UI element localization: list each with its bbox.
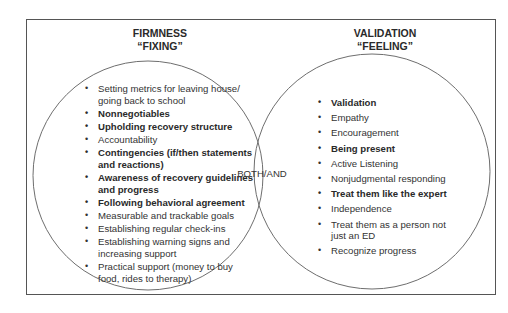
left-set-heading: FIRMNESS “FIXING” [100, 27, 220, 53]
list-item: Establishing warning signs and increasin… [85, 236, 255, 259]
list-item: Being present [318, 143, 458, 155]
validation-item-list: ValidationEmpathyEncouragementBeing pres… [318, 97, 458, 260]
right-set-subtitle: “FEELING” [325, 40, 445, 53]
list-item: Encouragement [318, 127, 458, 139]
left-set-subtitle: “FIXING” [100, 40, 220, 53]
overlap-label: BOTH/AND [229, 168, 295, 179]
firmness-item-list: Setting metrics for leaving house/ going… [85, 83, 255, 286]
list-item: Accountability [85, 134, 255, 146]
list-item: Establishing regular check-ins [85, 223, 255, 235]
list-item: Nonnegotiables [85, 108, 255, 120]
list-item: Practical support (money to buy food, ri… [85, 261, 255, 284]
right-set-heading: VALIDATION “FEELING” [325, 27, 445, 53]
list-item: Treat them like the expert [318, 188, 458, 200]
list-item: Active Listening [318, 158, 458, 170]
list-item: Measurable and trackable goals [85, 210, 255, 222]
list-item: Treat them as a person not just an ED [318, 219, 458, 242]
list-item: Setting metrics for leaving house/ going… [85, 83, 255, 106]
list-item: Empathy [318, 112, 458, 124]
list-item: Validation [318, 97, 458, 109]
left-set-title: FIRMNESS [100, 27, 220, 40]
list-item: Following behavioral agreement [85, 197, 255, 209]
list-item: Independence [318, 203, 458, 215]
list-item: Recognize progress [318, 245, 458, 257]
list-item: Upholding recovery structure [85, 121, 255, 133]
right-set-title: VALIDATION [325, 27, 445, 40]
list-item: Nonjudgmental responding [318, 173, 458, 185]
